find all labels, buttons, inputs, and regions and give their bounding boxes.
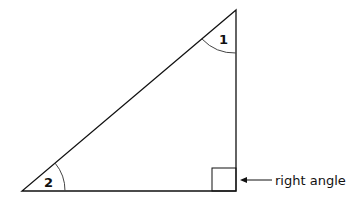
triangle-diagram: 1 2 right angle: [0, 0, 358, 209]
triangle: [22, 10, 236, 191]
angle-1-label: 1: [219, 32, 228, 47]
right-angle-label: right angle: [275, 173, 346, 188]
right-angle-marker: [212, 168, 236, 191]
angle-2-label: 2: [44, 175, 53, 190]
arrow-head-icon: [240, 177, 247, 183]
angle-2-arc: [55, 163, 65, 191]
